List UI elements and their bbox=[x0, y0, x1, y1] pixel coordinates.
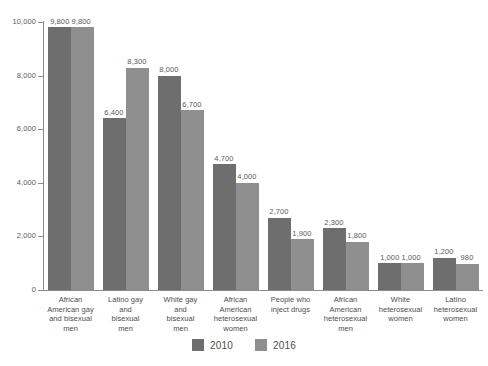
bar-2010[interactable]: 9,800 9,800 bbox=[48, 27, 71, 290]
bar-2016[interactable]: 6,700 bbox=[181, 110, 204, 290]
bar-2010[interactable]: 1,200 bbox=[433, 258, 456, 290]
category-label-line: and bisexual bbox=[43, 314, 98, 324]
legend-swatch-icon bbox=[255, 339, 267, 351]
category-label-line: heterosexual bbox=[373, 305, 428, 315]
category-label-line: bisexual bbox=[153, 314, 208, 324]
bar-value-label: 1,000 1,000 bbox=[380, 253, 421, 262]
category-label-line: women bbox=[208, 324, 263, 334]
category-label-line: women bbox=[373, 314, 428, 324]
bar-value-label: 6,700 bbox=[182, 100, 201, 109]
category-label: AfricanAmerican gayand bisexualmen bbox=[43, 295, 98, 333]
category-label-line: African bbox=[318, 295, 373, 305]
category-label-line: American gay bbox=[43, 305, 98, 315]
category-label-line: men bbox=[318, 324, 373, 334]
y-tick-label: 4,000 bbox=[0, 178, 36, 187]
bar-2016[interactable]: 980 bbox=[456, 264, 479, 290]
bar-2010[interactable]: 1,000 1,000 bbox=[378, 263, 401, 290]
bar-pair: 9,800 9,800 bbox=[43, 22, 98, 290]
bar-pair: 8,0006,700 bbox=[153, 22, 208, 290]
category-label-line: White bbox=[373, 295, 428, 305]
category-label-line: inject drugs bbox=[263, 305, 318, 315]
chart-legend: 20102016 bbox=[0, 339, 488, 351]
category-label-line: African bbox=[208, 295, 263, 305]
category-label-line: and bbox=[98, 305, 153, 315]
bar-pair: 1,000 1,000 bbox=[373, 22, 428, 290]
bar-value-label: 8,000 bbox=[159, 65, 178, 74]
category-label-line: Latino gay bbox=[98, 295, 153, 305]
category-label-line: White gay bbox=[153, 295, 208, 305]
bar-2016[interactable]: 1,800 bbox=[346, 242, 369, 290]
category-label: Latino gayandbisexualmen bbox=[98, 295, 153, 333]
category-label: White gayandbisexualmen bbox=[153, 295, 208, 333]
bar-group: 1,000 1,000 bbox=[373, 22, 428, 290]
category-label-line: African bbox=[43, 295, 98, 305]
y-tick-label: 10,000 bbox=[0, 17, 36, 26]
legend-item-2010[interactable]: 2010 bbox=[192, 339, 233, 351]
bar-pair: 4,7004,000 bbox=[208, 22, 263, 290]
bar-value-label: 2,700 bbox=[269, 207, 288, 216]
category-label-line: men bbox=[43, 324, 98, 334]
bar-value-label: 1,200 bbox=[434, 247, 453, 256]
bar-value-label: 8,300 bbox=[127, 57, 146, 66]
bar-group: 8,0006,700 bbox=[153, 22, 208, 290]
bar-2010[interactable]: 2,700 bbox=[268, 218, 291, 290]
y-tick-mark bbox=[38, 290, 44, 291]
category-label-line: Latino bbox=[428, 295, 483, 305]
category-label: AfricanAmericanheterosexualmen bbox=[318, 295, 373, 333]
category-label-line: heterosexual bbox=[208, 314, 263, 324]
bar-group: 9,800 9,800 bbox=[43, 22, 98, 290]
category-label: Whiteheterosexualwomen bbox=[373, 295, 428, 324]
category-label-line: American bbox=[318, 305, 373, 315]
grouped-bar-chart: 02,0004,0006,0008,00010,000 9,800 9,8006… bbox=[0, 0, 488, 366]
bar-pair: 2,3001,800 bbox=[318, 22, 373, 290]
bar-2016[interactable] bbox=[401, 263, 424, 290]
bar-value-label: 1,800 bbox=[347, 231, 366, 240]
bar-pair: 6,4008,300 bbox=[98, 22, 153, 290]
category-label: AfricanAmericanheterosexualwomen bbox=[208, 295, 263, 333]
category-label: People whoinject drugs bbox=[263, 295, 318, 314]
legend-item-2016[interactable]: 2016 bbox=[255, 339, 296, 351]
bar-2010[interactable]: 2,300 bbox=[323, 228, 346, 290]
bar-group: 1,200980 bbox=[428, 22, 483, 290]
category-label-line: bisexual bbox=[98, 314, 153, 324]
bar-2010[interactable]: 4,700 bbox=[213, 164, 236, 290]
bar-value-label: 4,000 bbox=[237, 172, 256, 181]
category-label-line: and bbox=[153, 305, 208, 315]
bar-value-label: 2,300 bbox=[324, 218, 343, 227]
bar-2016[interactable]: 8,300 bbox=[126, 68, 149, 290]
category-label-line: heterosexual bbox=[318, 314, 373, 324]
bar-2016[interactable]: 4,000 bbox=[236, 183, 259, 290]
legend-swatch-icon bbox=[192, 339, 204, 351]
x-axis-line bbox=[43, 290, 483, 291]
legend-label: 2010 bbox=[210, 340, 233, 351]
bar-value-label: 4,700 bbox=[214, 154, 233, 163]
legend-label: 2016 bbox=[273, 340, 296, 351]
bar-group: 4,7004,000 bbox=[208, 22, 263, 290]
category-label-line: men bbox=[98, 324, 153, 334]
bar-group: 6,4008,300 bbox=[98, 22, 153, 290]
category-label-line: American bbox=[208, 305, 263, 315]
y-tick-label: 6,000 bbox=[0, 124, 36, 133]
bar-value-label: 9,800 9,800 bbox=[50, 17, 91, 26]
bar-pair: 2,7001,900 bbox=[263, 22, 318, 290]
y-tick-label: 8,000 bbox=[0, 71, 36, 80]
category-label-line: men bbox=[153, 324, 208, 334]
bar-2010[interactable]: 6,400 bbox=[103, 118, 126, 290]
category-label-line: People who bbox=[263, 295, 318, 305]
category-label: Latinoheterosexualwomen bbox=[428, 295, 483, 324]
bar-2016[interactable] bbox=[71, 27, 94, 290]
bar-group: 2,7001,900 bbox=[263, 22, 318, 290]
bar-pair: 1,200980 bbox=[428, 22, 483, 290]
y-tick-label: 0 bbox=[0, 285, 36, 294]
bar-value-label: 6,400 bbox=[104, 108, 123, 117]
bar-2016[interactable]: 1,900 bbox=[291, 239, 314, 290]
category-label-line: heterosexual bbox=[428, 305, 483, 315]
bar-2010[interactable]: 8,000 bbox=[158, 76, 181, 290]
bar-value-label: 980 bbox=[461, 253, 474, 262]
y-tick-label: 2,000 bbox=[0, 231, 36, 240]
category-label-line: women bbox=[428, 314, 483, 324]
bar-group: 2,3001,800 bbox=[318, 22, 373, 290]
bar-value-label: 1,900 bbox=[292, 229, 311, 238]
